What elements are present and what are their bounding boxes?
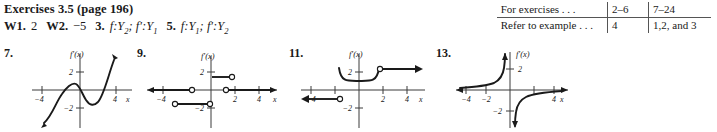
open-point-left-ray (337, 96, 342, 101)
answer-value-w1: 2 (31, 19, 37, 33)
curve-cubic (44, 60, 114, 123)
x-tick-label-minus2: −2 (481, 95, 490, 104)
answers-block: Exercises 3.5 (page 196) W1.2W2.−53.f:Y2… (4, 2, 464, 39)
x-tick-label-4: 4 (113, 95, 117, 104)
figure-exercise-13: 13. −4 −2 4 2 −2 f′(x) x (434, 44, 574, 132)
x-tick-label-minus4: −4 (461, 95, 470, 104)
x-axis-label: x (559, 95, 564, 104)
x-tick-label-2: 2 (381, 95, 385, 104)
table-row: For exercises . . . 2–6 7–24 (497, 2, 711, 18)
table-cell-for-exercises-label: For exercises . . . (497, 2, 608, 18)
function-label: f′(x) (201, 51, 215, 61)
table-cell-refer-example-label: Refer to example . . . (497, 18, 608, 34)
figure-exercise-11: 11. −4 2 4 2 −2 f′(x) x (287, 44, 432, 132)
function-label: f′(x) (349, 49, 363, 59)
y-tick-label-2: 2 (348, 68, 352, 77)
x-axis-arrow-right (561, 87, 568, 93)
answer-value-5b: ; f′:Y (200, 19, 225, 33)
y-tick-label-minus2: −2 (195, 104, 204, 113)
answer-value-w2: −5 (73, 19, 86, 33)
x-tick-label-minus4: −4 (34, 95, 43, 104)
y-tick-label-minus2: −2 (64, 104, 73, 113)
x-tick-label-4: 4 (552, 95, 556, 104)
answer-label-w1: W1. (4, 19, 26, 33)
curve-arrow-start (41, 123, 47, 128)
open-point-1 (189, 87, 194, 92)
y-tick-label-2: 2 (518, 65, 522, 74)
table-cell-refer-example-right: 1,2, and 3 (649, 18, 712, 34)
right-ray-arrow (415, 65, 423, 73)
graph-exercise-9: −4 2 4 2 −2 f′(x) x (135, 44, 283, 132)
answer-label-3: 3. (95, 19, 104, 33)
x-axis-label: x (125, 95, 130, 104)
table-row: Refer to example . . . 4 1,2, and 3 (497, 18, 711, 34)
open-point-2 (172, 101, 177, 106)
table-cell-refer-example-mid: 4 (608, 18, 649, 34)
x-axis-label: x (272, 95, 277, 104)
answer-label-5: 5. (166, 19, 175, 33)
answer-sub-3b: 1 (153, 26, 157, 36)
function-label: f′(x) (516, 49, 530, 59)
exercise-set-title: Exercises 3.5 (page 196) (4, 2, 464, 17)
function-label: f′(x) (70, 49, 84, 59)
y-tick-label-minus2: −2 (493, 107, 502, 116)
answer-label-w2: W2. (46, 19, 68, 33)
answer-sub-5b: 2 (224, 26, 228, 36)
open-point-3 (207, 101, 212, 106)
left-branch-arrow (502, 53, 508, 60)
figure-exercise-7: 7. −4 4 2 −2 f′(x) x (2, 44, 134, 132)
y-tick-label-minus2: −2 (343, 104, 352, 113)
open-point-5 (223, 87, 228, 92)
x-axis-label: x (418, 95, 423, 104)
graph-exercise-7: −4 4 2 −2 f′(x) x (2, 44, 134, 132)
y-tick-label-2: 2 (69, 68, 73, 77)
curve-left-branch (460, 54, 505, 88)
right-branch-arrow (512, 121, 518, 128)
x-tick-label-4: 4 (405, 95, 409, 104)
graph-exercise-13: −4 −2 4 2 −2 f′(x) x (434, 44, 574, 132)
open-point-right-ray (377, 66, 382, 71)
answer-value-3b: ; f′:Y (129, 19, 154, 33)
x-tick-label-minus4: −4 (156, 95, 165, 104)
table-cell-for-exercises-right: 7–24 (649, 2, 712, 18)
answer-value-5a: f:Y (181, 19, 196, 33)
table-cell-for-exercises-mid: 2–6 (608, 2, 649, 18)
figure-exercise-9: 9. −4 2 4 2 −2 f′(x) x (135, 44, 283, 132)
open-point-4 (229, 74, 234, 79)
answer-value-3a: f:Y (110, 19, 125, 33)
answers-line: W1.2W2.−53.f:Y2; f′:Y15.f:Y1; f′:Y2 (4, 18, 464, 39)
curve-arrow-end (112, 54, 118, 60)
graph-exercise-11: −4 2 4 2 −2 f′(x) x (287, 44, 432, 132)
x-tick-label-2: 2 (233, 95, 237, 104)
left-ray-arrow (301, 95, 309, 103)
y-tick-label-2: 2 (200, 68, 204, 77)
reference-table: For exercises . . . 2–6 7–24 Refer to ex… (497, 2, 711, 33)
x-tick-label-4: 4 (257, 95, 261, 104)
